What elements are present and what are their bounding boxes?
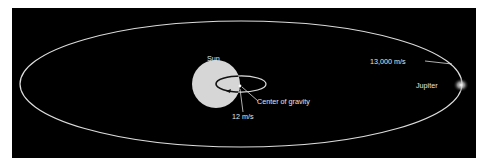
jupiter-icon	[453, 78, 469, 92]
sun-velocity-label: 12 m/s	[232, 112, 254, 121]
jupiter-orbit	[20, 21, 462, 147]
jupiter-velocity-label: 13,000 m/s	[370, 57, 406, 66]
center-of-gravity-leader	[242, 87, 258, 101]
center-of-gravity-marker	[239, 85, 242, 88]
jupiter-label: Jupiter	[416, 81, 438, 90]
sun-orbit-outer-arc	[238, 76, 266, 92]
sun-jupiter-orbit-diagram: Sun Center of gravity 12 m/s 13,000 m/s …	[0, 0, 485, 165]
sun-label: Sun	[207, 54, 220, 63]
center-of-gravity-label: Center of gravity	[257, 97, 310, 106]
